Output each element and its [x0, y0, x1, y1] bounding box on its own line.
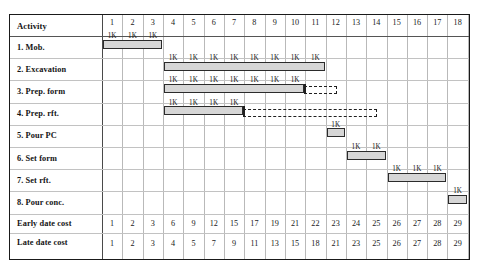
- bar-cost-label: 1K: [183, 99, 203, 107]
- bar-cost-label: 1K: [285, 54, 305, 62]
- bar-cost-label: 1K: [183, 54, 203, 62]
- bar-cost-label: 1K: [204, 99, 224, 107]
- bar-cost-label: 1K: [346, 143, 366, 151]
- bar-cost-label: 1K: [102, 32, 122, 40]
- gantt-bar-4: [164, 106, 243, 115]
- bar-cost-label: 1K: [204, 54, 224, 62]
- bar-cost-label: 1K: [244, 54, 264, 62]
- bar-cost-label: 1K: [224, 76, 244, 84]
- gantt-bar-5: [327, 128, 345, 137]
- gantt-bar-6: [347, 151, 386, 160]
- float-start-cap: [304, 84, 305, 95]
- bar-cost-label: 1K: [122, 32, 142, 40]
- gantt-bar-7: [388, 173, 447, 182]
- bar-cost-label: 1K: [265, 54, 285, 62]
- float-bar-3: [304, 86, 336, 94]
- bar-cost-label: 1K: [244, 76, 264, 84]
- gantt-bars-layer: 1K1K1K1K1K1K1K1K1K1K1K1K1K1K1K1K1K1K1K1K…: [10, 15, 469, 259]
- bar-cost-label: 1K: [163, 76, 183, 84]
- bar-cost-label: 1K: [366, 143, 386, 151]
- bar-cost-label: 1K: [265, 76, 285, 84]
- bar-cost-label: 1K: [387, 165, 407, 173]
- bar-cost-label: 1K: [224, 54, 244, 62]
- float-bar-4: [243, 109, 377, 117]
- gantt-bar-2: [164, 62, 325, 71]
- bar-cost-label: 1K: [285, 76, 305, 84]
- bar-cost-label: 1K: [183, 76, 203, 84]
- bar-cost-label: 1K: [447, 187, 467, 195]
- bar-cost-label: 1K: [163, 99, 183, 107]
- bar-cost-label: 1K: [326, 121, 346, 129]
- bar-cost-label: 1K: [143, 32, 163, 40]
- gantt-bar-3: [164, 84, 304, 93]
- bar-cost-label: 1K: [427, 165, 447, 173]
- bar-cost-label: 1K: [407, 165, 427, 173]
- gantt-bar-1: [103, 40, 162, 49]
- float-start-cap: [243, 106, 244, 117]
- bar-cost-label: 1K: [224, 99, 244, 107]
- bar-cost-label: 1K: [163, 54, 183, 62]
- gantt-bar-8: [448, 195, 466, 204]
- bar-cost-label: 1K: [305, 54, 325, 62]
- gantt-chart-table: Activity1234567891011121314151617181. Mo…: [9, 14, 470, 260]
- bar-cost-label: 1K: [204, 76, 224, 84]
